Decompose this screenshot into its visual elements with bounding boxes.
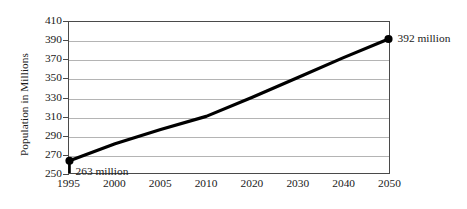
y-axis-tick-labels: 250270290310330350370390410 — [26, 16, 62, 174]
x-axis-tick-label: 2005 — [149, 178, 172, 189]
series-polyline — [69, 39, 388, 161]
y-axis-tick-label: 330 — [26, 92, 62, 103]
y-axis-tick-label: 410 — [26, 15, 62, 26]
y-axis-tick-label: 310 — [26, 111, 62, 122]
plot-area — [68, 21, 390, 174]
data-point-marker — [65, 157, 73, 165]
x-axis-tick-labels: 19952000200520102020203020402050 — [68, 178, 390, 196]
y-axis-tick-mark — [63, 174, 69, 175]
x-axis-tick-label: 2050 — [378, 178, 401, 189]
start-point-label: 263 million — [76, 166, 129, 177]
line-chart: Population in Millions 25027029031033035… — [0, 0, 467, 209]
x-axis-tick-label: 2010 — [195, 178, 218, 189]
x-axis-tick-label: 1995 — [57, 178, 80, 189]
y-axis-tick-label: 390 — [26, 34, 62, 45]
x-axis-tick-label: 2020 — [241, 178, 264, 189]
y-axis-tick-label: 370 — [26, 54, 62, 65]
x-axis-tick-label: 2030 — [286, 178, 309, 189]
data-series-line — [69, 22, 389, 173]
y-axis-tick-label: 270 — [26, 149, 62, 160]
x-axis-tick-label: 2040 — [332, 178, 355, 189]
x-axis-tick-label: 2000 — [103, 178, 126, 189]
y-axis-tick-label: 350 — [26, 73, 62, 84]
end-point-label: 392 million — [398, 33, 451, 44]
y-axis-tick-label: 290 — [26, 130, 62, 141]
data-point-marker — [384, 35, 392, 43]
